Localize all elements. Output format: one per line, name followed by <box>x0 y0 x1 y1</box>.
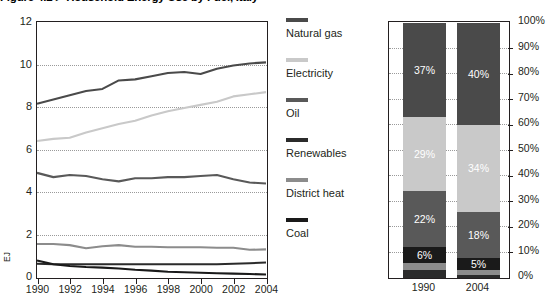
line-series-electricity <box>37 92 266 141</box>
bar-segment-district-heat <box>457 270 500 275</box>
legend-item-natural-gas: Natural gas <box>286 18 386 39</box>
bar-chart-x-tick-label: 2004 <box>448 281 508 293</box>
bar-chart-y-tick-label: 0% <box>518 269 533 281</box>
bar-segment-coal: 5% <box>457 258 500 271</box>
legend-swatch <box>286 178 308 182</box>
bar-chart-y-tick-label: 60% <box>518 116 539 128</box>
bar-segment-renewables <box>457 275 500 278</box>
line-chart-x-tick-label: 2002 <box>217 283 251 295</box>
line-chart-x-tick-label: 1994 <box>86 283 120 295</box>
bar-segment-renewables <box>403 270 446 278</box>
stacked-bar-chart: 6%22%29%37%5%18%34%40% 0%10%20%30%40%50%… <box>386 0 553 295</box>
line-chart-plot-area <box>36 21 268 279</box>
bar-chart-y-tick-label: 10% <box>518 244 539 256</box>
bar-chart-y-tick-label: 80% <box>518 65 539 77</box>
bar-chart-y-tick <box>508 48 513 49</box>
bar-chart-y-tick-label: 100% <box>518 14 545 26</box>
line-chart-x-tick-label: 1992 <box>53 283 87 295</box>
bar-segment-label: 18% <box>457 229 500 241</box>
bar-chart-y-tick <box>508 150 513 151</box>
bar-segment-label: 40% <box>457 68 500 80</box>
legend-swatch <box>286 18 308 22</box>
line-chart-y-tick-label: 4 <box>8 185 32 197</box>
line-chart-y-tick-label: 8 <box>8 100 32 112</box>
bar-segment-label: 22% <box>403 213 446 225</box>
bar-chart-y-tick <box>508 74 513 75</box>
bar-segment-natural-gas: 40% <box>457 23 500 125</box>
line-chart-y-tick-label: 2 <box>8 228 32 240</box>
line-chart-y-tick-label: 10 <box>8 58 32 70</box>
line-series-coal <box>37 260 266 274</box>
bar-segment-electricity: 29% <box>403 117 446 191</box>
line-chart-y-unit: EJ <box>2 252 12 262</box>
legend-swatch <box>286 98 308 102</box>
bar-chart-y-tick-label: 90% <box>518 40 539 52</box>
figure-container: Figure 4.2▸Household Energy Use by Fuel,… <box>0 0 553 295</box>
legend-swatch <box>286 138 308 142</box>
bar-segment-district-heat <box>403 263 446 271</box>
line-chart-x-tick-label: 1996 <box>119 283 153 295</box>
bar-chart-y-tick <box>508 227 513 228</box>
bar-segment-label: 6% <box>403 249 446 261</box>
bar-chart-y-tick-label: 50% <box>518 142 539 154</box>
bar-chart-y-tick <box>508 99 513 100</box>
line-chart: EJ 024681012 199019921994199619982000200… <box>0 0 280 295</box>
legend-item-oil: Oil <box>286 98 386 119</box>
legend-swatch <box>286 58 308 62</box>
bar-segment-oil: 22% <box>403 191 446 247</box>
line-chart-x-tick-label: 2000 <box>184 283 218 295</box>
legend-item-electricity: Electricity <box>286 58 386 79</box>
bar-segment-natural-gas: 37% <box>403 23 446 117</box>
legend-label: Renewables <box>286 147 386 159</box>
legend-label: Coal <box>286 227 386 239</box>
line-chart-x-tick-label: 2004 <box>250 283 284 295</box>
line-series-oil <box>37 173 266 184</box>
line-chart-y-tick-label: 6 <box>8 143 32 155</box>
bar-chart-y-tick-label: 30% <box>518 193 539 205</box>
stacked-bar-2004: 5%18%34%40% <box>457 23 500 278</box>
line-chart-series-layer <box>37 22 266 277</box>
bar-chart-y-tick <box>508 201 513 202</box>
legend-label: Electricity <box>286 67 386 79</box>
bar-segment-label: 34% <box>457 162 500 174</box>
line-chart-y-tick-label: 0 <box>8 270 32 282</box>
bar-segment-label: 5% <box>457 258 500 270</box>
bar-chart-y-tick-label: 20% <box>518 218 539 230</box>
bar-chart-plot-area: 6%22%29%37%5%18%34%40% <box>388 21 510 279</box>
legend-label: Oil <box>286 107 386 119</box>
bar-chart-y-tick-label: 70% <box>518 91 539 103</box>
bar-segment-electricity: 34% <box>457 125 500 212</box>
stacked-bar-1990: 6%22%29%37% <box>403 23 446 278</box>
bar-segment-coal: 6% <box>403 247 446 262</box>
bar-segment-label: 29% <box>403 148 446 160</box>
line-chart-x-tick-label: 1990 <box>21 283 55 295</box>
bar-chart-y-tick <box>508 125 513 126</box>
line-chart-x-tick-label: 1998 <box>151 283 185 295</box>
legend-item-renewables: Renewables <box>286 138 386 159</box>
legend: Natural gasElectricityOilRenewablesDistr… <box>286 18 386 268</box>
legend-label: Natural gas <box>286 27 386 39</box>
line-chart-y-tick-label: 12 <box>8 15 32 27</box>
legend-label: District heat <box>286 187 386 199</box>
bar-chart-y-tick-label: 40% <box>518 167 539 179</box>
bar-segment-oil: 18% <box>457 212 500 258</box>
legend-item-coal: Coal <box>286 218 386 239</box>
bar-segment-label: 37% <box>403 64 446 76</box>
bar-chart-y-tick <box>508 252 513 253</box>
line-series-district-heat <box>37 244 266 250</box>
legend-swatch <box>286 218 308 222</box>
bar-chart-x-tick-label: 1990 <box>394 281 454 293</box>
legend-item-district-heat: District heat <box>286 178 386 199</box>
line-series-renewables <box>37 263 266 265</box>
bar-chart-y-tick <box>508 176 513 177</box>
